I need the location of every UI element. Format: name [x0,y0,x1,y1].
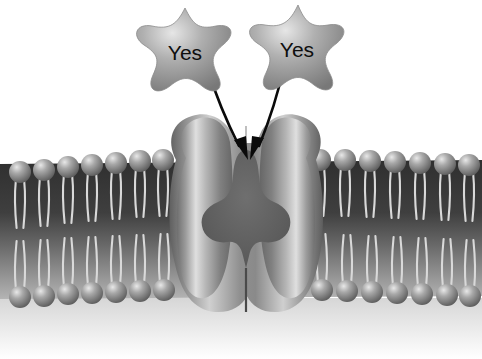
star-left-label: Yes [168,41,202,64]
figure-canvas: Yes Yes [0,0,482,359]
cytoplasm-wash [0,298,482,359]
membrane-diagram: Yes Yes [0,0,482,359]
star-right-label: Yes [280,38,314,61]
